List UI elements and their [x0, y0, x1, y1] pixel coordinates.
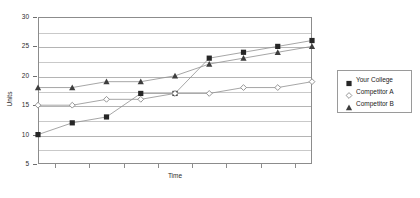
legend-label: Competitor B — [356, 101, 394, 108]
legend-item-1[interactable]: Your College — [343, 75, 411, 86]
data-point — [207, 56, 212, 61]
x-tick-mark — [261, 164, 262, 168]
data-point — [172, 73, 178, 79]
filled-triangle-icon — [343, 99, 355, 110]
x-tick-mark — [295, 164, 296, 168]
data-point — [241, 85, 247, 91]
y-axis-title: Units — [6, 92, 13, 107]
y-tick-mark — [33, 17, 37, 18]
y-tick-mark — [33, 76, 37, 77]
filled-square-icon — [343, 75, 355, 86]
y-tick-label: 15 — [22, 102, 29, 109]
data-point — [104, 114, 109, 119]
x-tick-mark — [89, 164, 90, 168]
data-point — [309, 43, 315, 49]
y-tick-mark — [33, 164, 37, 165]
data-point — [206, 91, 212, 97]
data-point — [70, 120, 75, 125]
x-axis-title: Time — [38, 172, 312, 179]
data-point — [69, 102, 75, 108]
y-tick-label: 10 — [22, 131, 29, 138]
x-tick-mark — [124, 164, 125, 168]
data-point — [309, 79, 315, 85]
data-point — [241, 50, 246, 55]
open-diamond-icon — [343, 87, 355, 98]
data-point — [138, 91, 143, 96]
data-point — [138, 96, 144, 102]
y-tick-label: 25 — [22, 43, 29, 50]
series-line — [38, 46, 312, 87]
legend-label: Your College — [356, 77, 393, 84]
data-point — [309, 38, 314, 43]
y-tick-label: 30 — [22, 14, 29, 21]
x-tick-mark — [55, 164, 56, 168]
data-point — [35, 132, 40, 137]
data-point — [104, 96, 110, 102]
y-tick-mark — [33, 46, 37, 47]
data-point — [275, 85, 281, 91]
series-layer — [38, 17, 312, 164]
y-tick-label: 20 — [22, 73, 29, 80]
y-tick-label: 5 — [25, 161, 29, 168]
line-chart: 30252015105 Units Time Your CollegeCompe… — [0, 0, 420, 198]
x-tick-mark — [226, 164, 227, 168]
x-tick-mark — [192, 164, 193, 168]
legend-item-3[interactable]: Competitor B — [343, 99, 411, 110]
chart-legend: Your CollegeCompetitor ACompetitor B — [337, 70, 412, 113]
legend-label: Competitor A — [356, 89, 394, 96]
series-3 — [35, 43, 315, 90]
x-tick-mark — [158, 164, 159, 168]
data-point — [275, 44, 280, 49]
series-2 — [35, 79, 315, 108]
legend-item-2[interactable]: Competitor A — [343, 87, 411, 98]
